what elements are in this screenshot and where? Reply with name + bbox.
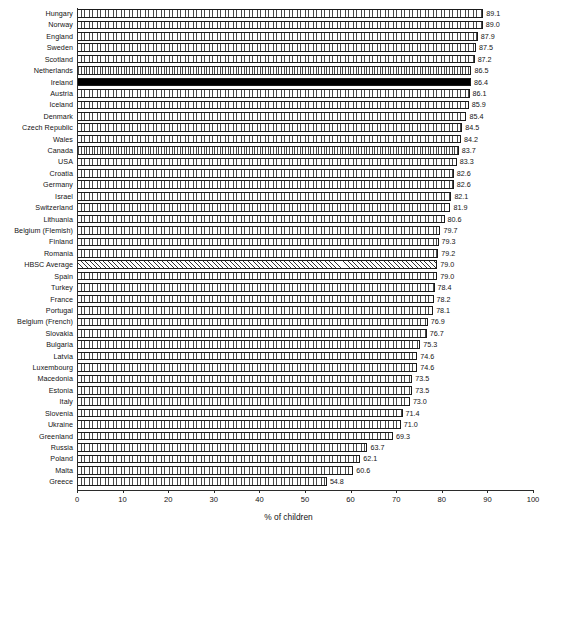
- category-label: Italy: [0, 396, 73, 407]
- bar-row: Russia63.7: [0, 442, 577, 453]
- value-label: 86.4: [474, 77, 488, 88]
- value-label: 78.4: [438, 282, 452, 293]
- bar-row: Norway89.0: [0, 19, 577, 30]
- bar-row: Croatia82.6: [0, 168, 577, 179]
- category-label: Netherlands: [0, 65, 73, 76]
- category-label: France: [0, 294, 73, 305]
- bar-row: Poland62.1: [0, 453, 577, 464]
- bar: [77, 135, 461, 144]
- bar: [77, 477, 327, 486]
- bar-row: Austria86.1: [0, 88, 577, 99]
- x-tick-label: 70: [392, 495, 400, 504]
- bar: [77, 363, 417, 372]
- bar-row: Canada83.7: [0, 145, 577, 156]
- bar-track: [77, 236, 533, 247]
- x-tick: [123, 490, 124, 493]
- y-axis-line: [77, 8, 78, 490]
- bar-row: Czech Republic84.5: [0, 122, 577, 133]
- value-label: 89.1: [486, 8, 500, 19]
- value-label: 85.9: [472, 99, 486, 110]
- x-tick: [351, 490, 352, 493]
- bar: [77, 329, 427, 338]
- bar-track: [77, 19, 533, 30]
- category-label: Turkey: [0, 282, 73, 293]
- category-label: Slovakia: [0, 328, 73, 339]
- value-label: 76.7: [430, 328, 444, 339]
- bar-row: Belgium (Flemish)79.7: [0, 225, 577, 236]
- value-label: 78.2: [437, 294, 451, 305]
- bar: [77, 66, 471, 75]
- bar-track: [77, 31, 533, 42]
- category-label: Belgium (French): [0, 316, 73, 327]
- x-tick: [396, 490, 397, 493]
- bar-track: [77, 419, 533, 430]
- value-label: 73.5: [415, 385, 429, 396]
- bar: [77, 432, 393, 441]
- category-label: Greenland: [0, 431, 73, 442]
- bar-track: [77, 453, 533, 464]
- bar: [77, 101, 469, 110]
- bar: [77, 226, 440, 235]
- x-tick: [533, 490, 534, 493]
- category-label: Germany: [0, 179, 73, 190]
- bar-row: Ukraine71.0: [0, 419, 577, 430]
- value-label: 82.1: [454, 191, 468, 202]
- bar: [77, 283, 435, 292]
- value-label: 83.7: [462, 145, 476, 156]
- bar: [77, 295, 434, 304]
- value-label: 71.0: [404, 419, 418, 430]
- category-label: Iceland: [0, 99, 73, 110]
- category-label: Lithuania: [0, 214, 73, 225]
- bar-row: Luxembourg74.6: [0, 362, 577, 373]
- bar-track: [77, 408, 533, 419]
- category-label: Czech Republic: [0, 122, 73, 133]
- bar-track: [77, 77, 533, 88]
- bar: [77, 409, 403, 418]
- horizontal-bar-chart: Hungary89.1Norway89.0England87.9Sweden87…: [0, 0, 577, 630]
- bar-track: [77, 88, 533, 99]
- bar-track: [77, 65, 533, 76]
- value-label: 78.1: [436, 305, 450, 316]
- value-label: 69.3: [396, 431, 410, 442]
- category-label: Switzerland: [0, 202, 73, 213]
- bar: [77, 272, 437, 281]
- value-label: 79.0: [440, 271, 454, 282]
- bar: [77, 158, 457, 167]
- category-label: Luxembourg: [0, 362, 73, 373]
- bar-row: USA83.3: [0, 156, 577, 167]
- category-label: Ireland: [0, 77, 73, 88]
- bar-row: Spain79.0: [0, 271, 577, 282]
- value-label: 63.7: [370, 442, 384, 453]
- value-label: 60.6: [356, 465, 370, 476]
- bar-row: France78.2: [0, 294, 577, 305]
- bar-row: Belgium (French)76.9: [0, 316, 577, 327]
- bar: [77, 420, 401, 429]
- bar: [77, 455, 360, 464]
- bar-row: Hungary89.1: [0, 8, 577, 19]
- bar: [77, 89, 470, 98]
- value-label: 74.6: [420, 362, 434, 373]
- x-tick-label: 90: [483, 495, 491, 504]
- bar-row: Bulgaria75.3: [0, 339, 577, 350]
- bar-row: Lithuania80.6: [0, 214, 577, 225]
- bar: [77, 180, 454, 189]
- bar-row: Denmark85.4: [0, 111, 577, 122]
- category-label: Romania: [0, 248, 73, 259]
- bar: [77, 238, 439, 247]
- bar-track: [77, 476, 533, 487]
- bar-track: [77, 396, 533, 407]
- bar-row: Germany82.6: [0, 179, 577, 190]
- category-label: Scotland: [0, 54, 73, 65]
- value-label: 84.2: [464, 134, 478, 145]
- value-label: 89.0: [486, 19, 500, 30]
- category-label: Denmark: [0, 111, 73, 122]
- x-tick-label: 100: [527, 495, 540, 504]
- x-tick: [77, 490, 78, 493]
- bar-row: Israel82.1: [0, 191, 577, 202]
- value-label: 79.7: [443, 225, 457, 236]
- bar-track: [77, 248, 533, 259]
- category-label: Russia: [0, 442, 73, 453]
- bar: [77, 260, 437, 269]
- bar-track: [77, 42, 533, 53]
- x-tick-label: 0: [75, 495, 79, 504]
